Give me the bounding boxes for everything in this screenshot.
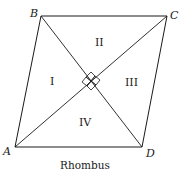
region-label-iii: III	[125, 76, 138, 89]
vertex-label-d: D	[145, 147, 155, 160]
region-label-iv: IV	[79, 116, 92, 129]
vertex-label-c: C	[170, 9, 179, 22]
vertex-label-a: A	[2, 145, 11, 158]
region-label-ii: II	[95, 36, 104, 49]
diagram-caption: Rhombus	[60, 159, 110, 171]
vertex-label-b: B	[29, 7, 38, 20]
region-label-i: I	[50, 75, 54, 88]
rhombus-diagram: B C A D I II III IV Rhombus	[0, 0, 189, 176]
